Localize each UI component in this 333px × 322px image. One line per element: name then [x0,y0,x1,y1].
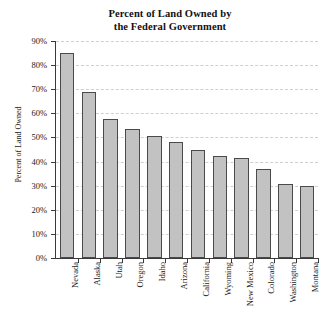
y-axis-tick-label: 90% [3,36,47,46]
bar [300,186,315,258]
bar [169,142,184,258]
y-axis-tick-label: 40% [3,157,47,167]
x-axis-tick-label: Utah [115,262,124,322]
bar [256,169,271,258]
y-axis-tick-label: 50% [3,132,47,142]
bar [103,119,118,258]
y-axis-tick-label: 80% [3,60,47,70]
bar [60,53,75,258]
x-axis-tick-label: Oregon [136,262,145,322]
x-axis-tick-label: Wyoming [224,262,233,322]
gridline [56,41,318,42]
x-axis-tick-label: Colorado [267,262,276,322]
bar [213,156,228,258]
y-axis-tick-label: 30% [3,181,47,191]
y-axis-tick-label: 0% [3,253,47,263]
gridline [56,65,318,66]
bar [147,136,162,258]
chart-title: Percent of Land Owned by the Federal Gov… [35,8,305,33]
chart-title-line-1: Percent of Land Owned by [35,8,305,21]
x-axis-tick-label: Alaska [93,262,102,322]
x-axis-tick-label: Montana [311,262,320,322]
bar [234,158,249,258]
y-axis-tick-label: 60% [3,108,47,118]
bar [125,129,140,258]
x-axis-tick-label: New Mexico [246,262,255,322]
x-axis-tick-label: Washington [289,262,298,322]
gridline [56,89,318,90]
x-axis-tick-label: Idaho [158,262,167,322]
x-axis-tick-label: California [202,262,211,322]
x-axis-tick-label: Nevada [71,262,80,322]
plot-area [56,41,318,258]
bar [278,184,293,258]
bar [191,150,206,259]
y-axis-tick-label: 10% [3,229,47,239]
y-axis-tick-label: 70% [3,84,47,94]
y-axis-tick-label: 20% [3,205,47,215]
bar-chart-figure: Percent of Land Owned by the Federal Gov… [0,0,333,322]
chart-title-line-2: the Federal Government [35,21,305,34]
x-axis-tick-label: Arizona [180,262,189,322]
bar [82,92,97,258]
